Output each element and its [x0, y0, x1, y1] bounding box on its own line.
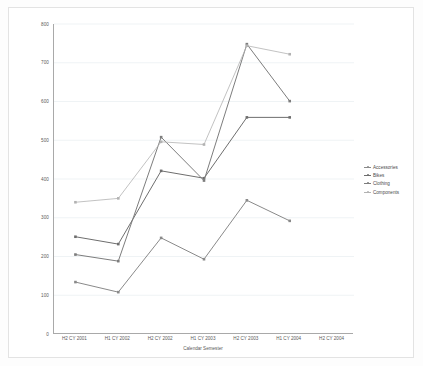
series-accessories — [74, 199, 291, 293]
x-axis-tick-label: H1 CY 2002 — [93, 336, 141, 342]
series-line — [75, 44, 289, 261]
data-point — [160, 170, 163, 173]
series-line — [75, 117, 289, 244]
data-point — [288, 116, 291, 119]
legend-item-label: Clothing — [373, 181, 390, 186]
data-point — [117, 291, 120, 294]
plot-area — [53, 24, 353, 334]
y-axis-tick-label: 800 — [23, 22, 49, 27]
x-axis-tick-label: H1 CY 2004 — [265, 336, 313, 342]
data-point — [288, 53, 291, 56]
x-axis-tick-label: H2 CY 2003 — [222, 336, 270, 342]
data-point — [203, 179, 206, 182]
y-axis: 8007006005004003002001000 — [19, 8, 49, 348]
legend-item-label: Components — [373, 190, 399, 195]
legend-item-label: Bikes — [373, 173, 384, 178]
data-point — [117, 260, 120, 263]
y-axis-tick-label: 500 — [23, 138, 49, 143]
data-point — [246, 199, 249, 202]
chart-frame: 8007006005004003002001000 H2 CY 2001H1 C… — [8, 7, 414, 358]
data-point — [246, 116, 249, 119]
data-point — [288, 220, 291, 223]
legend-marker-icon — [364, 189, 371, 196]
legend-item-accessories[interactable]: Accessories — [364, 163, 423, 171]
data-point — [203, 258, 206, 261]
legend-item-label: Accessories — [373, 165, 398, 170]
data-point — [74, 253, 77, 256]
data-point — [117, 243, 120, 246]
chart-screenshot: 8007006005004003002001000 H2 CY 2001H1 C… — [0, 0, 423, 366]
legend-item-bikes[interactable]: Bikes — [364, 171, 423, 179]
legend-marker-icon — [364, 164, 371, 171]
data-point — [288, 100, 291, 103]
data-point — [74, 281, 77, 284]
data-point — [160, 237, 163, 240]
y-axis-tick-label: 0 — [23, 332, 49, 337]
x-axis-title: Calendar Semester — [53, 346, 353, 351]
x-axis-tick-label: H2 CY 2001 — [50, 336, 98, 342]
data-point — [117, 197, 120, 200]
data-point — [74, 201, 77, 204]
y-axis-tick-label: 300 — [23, 215, 49, 220]
x-axis-tick-label: H1 CY 2003 — [179, 336, 227, 342]
y-axis-tick-label: 400 — [23, 177, 49, 182]
legend-item-clothing[interactable]: Clothing — [364, 180, 423, 188]
y-axis-tick-label: 600 — [23, 99, 49, 104]
y-axis-tick-label: 700 — [23, 60, 49, 65]
y-axis-tick-label: 100 — [23, 293, 49, 298]
series-bikes — [74, 116, 291, 245]
x-axis-tick-label: H2 CY 2004 — [308, 336, 356, 342]
series-components — [74, 44, 291, 203]
series-line — [75, 200, 289, 292]
data-point — [246, 44, 249, 47]
data-point — [160, 141, 163, 144]
data-point — [203, 143, 206, 146]
legend-item-components[interactable]: Components — [364, 188, 423, 196]
legend-marker-icon — [364, 172, 371, 179]
legend-marker-icon — [364, 180, 371, 187]
data-point — [74, 235, 77, 238]
x-axis-tick-label: H2 CY 2002 — [136, 336, 184, 342]
data-point — [160, 136, 163, 139]
chart-legend: AccessoriesBikesClothingComponents — [364, 163, 423, 197]
y-axis-tick-label: 200 — [23, 254, 49, 259]
series-clothing — [74, 43, 291, 263]
chart-canvas — [54, 24, 354, 334]
